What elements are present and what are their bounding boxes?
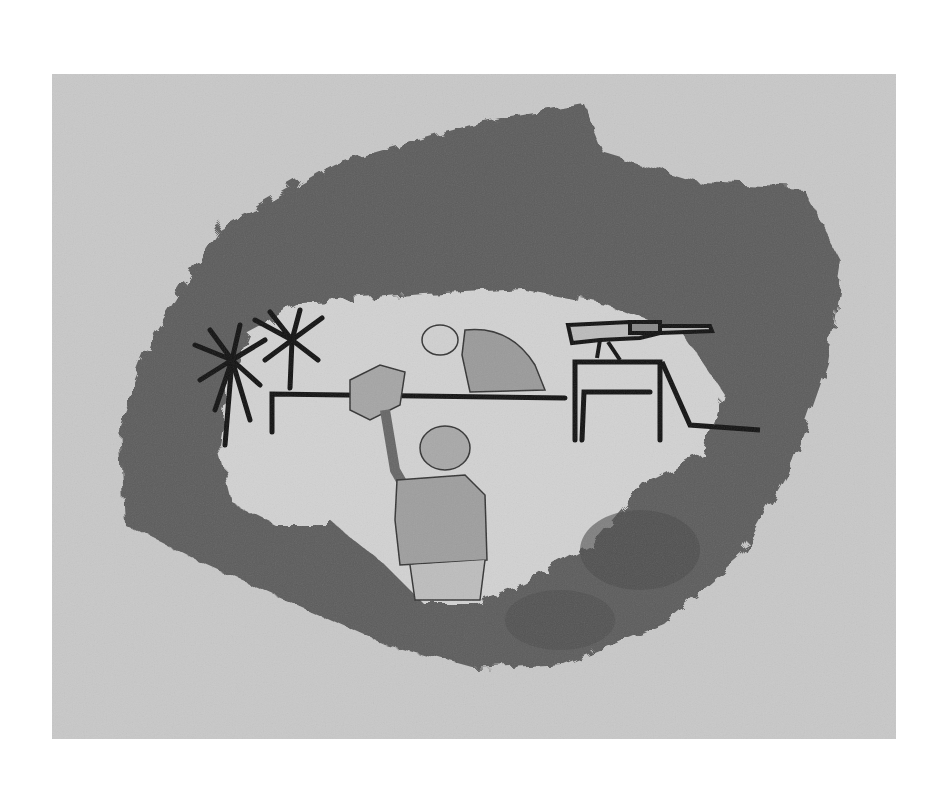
paper-grain [52, 74, 896, 739]
pencil-drawing [0, 0, 947, 796]
